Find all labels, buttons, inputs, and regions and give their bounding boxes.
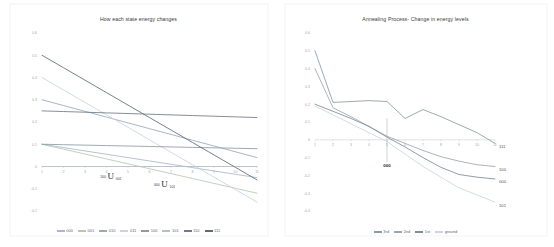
series-end-label-100: 100 bbox=[499, 167, 507, 172]
series-line-100 bbox=[42, 144, 257, 148]
series-line-110 bbox=[42, 111, 257, 118]
y-axis-tick-label: -0.2 bbox=[304, 174, 310, 178]
crossing-label-left-000: 000 bbox=[154, 183, 160, 187]
x-axis-tick-label: 4 bbox=[368, 143, 370, 147]
y-axis-tick-label: 0.6 bbox=[32, 31, 37, 35]
y-axis-tick-label: 0.3 bbox=[32, 98, 37, 102]
legend-item-101[interactable]: 101 bbox=[162, 229, 178, 233]
legend-label: 100 bbox=[151, 229, 158, 233]
crossing-label-left-100: 100 bbox=[100, 175, 106, 179]
left-chart-legend: 000001010011100101110111 bbox=[0, 229, 277, 233]
legend-swatch-icon bbox=[184, 230, 192, 231]
y-axis-tick-label: 0 bbox=[308, 138, 310, 142]
left-chart-panel: How each state energy changes 0.60.50.40… bbox=[0, 0, 277, 247]
crossing-glyph: U bbox=[161, 179, 168, 189]
legend-item-010[interactable]: 010 bbox=[99, 229, 115, 233]
series-end-label-000: 000 bbox=[499, 179, 507, 184]
x-axis-tick-label: 2 bbox=[332, 143, 334, 147]
y-axis-tick-label: -0.1 bbox=[304, 156, 310, 160]
right-chart-legend: 3rd2nd1stground bbox=[277, 230, 554, 234]
crossing-label-right-101: 101 bbox=[170, 185, 176, 189]
legend-label: 010 bbox=[109, 229, 116, 233]
legend-item-100[interactable]: 100 bbox=[141, 229, 157, 233]
legend-label: ground bbox=[445, 230, 457, 234]
series-end-label-111: 111 bbox=[499, 144, 506, 149]
plot-area-border bbox=[10, 4, 268, 236]
x-axis-tick-label: 3 bbox=[350, 143, 352, 147]
x-axis-tick-label: 9 bbox=[213, 170, 215, 174]
legend-swatch-icon bbox=[57, 230, 65, 231]
legend-item-111[interactable]: 111 bbox=[205, 229, 221, 233]
legend-swatch-icon bbox=[78, 230, 86, 231]
y-axis-tick-label: 0 bbox=[35, 165, 37, 169]
legend-label: 3rd bbox=[383, 230, 389, 234]
x-axis-tick-label: 10 bbox=[475, 143, 479, 147]
y-axis-tick-label: 0.1 bbox=[305, 120, 310, 124]
legend-swatch-icon bbox=[141, 230, 149, 231]
series-line-1st bbox=[315, 104, 495, 179]
y-axis-tick-label: -0.4 bbox=[304, 209, 310, 213]
legend-label: 001 bbox=[88, 229, 95, 233]
legend-item-000[interactable]: 000 bbox=[57, 229, 73, 233]
y-axis-tick-label: 0.2 bbox=[305, 103, 310, 107]
y-axis-tick-label: 0.2 bbox=[32, 120, 37, 124]
legend-swatch-icon bbox=[99, 230, 107, 231]
legend-label: 2nd bbox=[404, 230, 411, 234]
x-axis-tick-label: 7 bbox=[170, 170, 172, 174]
x-axis-tick-label: 10 bbox=[234, 170, 238, 174]
chart-page: How each state energy changes 0.60.50.40… bbox=[0, 0, 554, 247]
legend-swatch-icon bbox=[415, 231, 423, 232]
series-line-2nd bbox=[315, 69, 495, 167]
plot-area-border bbox=[285, 4, 547, 236]
legend-item-110[interactable]: 110 bbox=[184, 229, 200, 233]
right-chart-panel: Annealing Process- Change in energy leve… bbox=[277, 0, 554, 247]
legend-label: 111 bbox=[214, 229, 220, 233]
legend-swatch-icon bbox=[120, 230, 128, 231]
x-axis-tick-label: 1 bbox=[41, 170, 43, 174]
x-axis-tick-label: 11 bbox=[255, 170, 259, 174]
x-axis-tick-label: 2 bbox=[63, 170, 65, 174]
crossing-label-right-001: 001 bbox=[116, 177, 122, 181]
left-chart-plot: 0.60.50.40.30.20.10-0.1-0.21234567891011… bbox=[0, 0, 277, 247]
y-axis-tick-label: -0.3 bbox=[304, 192, 310, 196]
y-axis-tick-label: -0.2 bbox=[31, 209, 37, 213]
series-end-label-101: 101 bbox=[499, 203, 507, 208]
x-axis-tick-label: 1 bbox=[314, 143, 316, 147]
legend-label: 110 bbox=[193, 229, 199, 233]
legend-item-ground[interactable]: ground bbox=[435, 230, 457, 234]
right-chart-plot: 0.60.50.40.30.20.10-0.1-0.2-0.3-0.412345… bbox=[277, 0, 554, 247]
legend-label: 101 bbox=[172, 229, 179, 233]
legend-label: 1st bbox=[425, 230, 430, 234]
legend-swatch-icon bbox=[374, 231, 382, 232]
x-axis-tick-label: 9 bbox=[458, 143, 460, 147]
series-line-011 bbox=[42, 78, 257, 203]
x-axis-tick-label: 8 bbox=[440, 143, 442, 147]
y-axis-tick-label: 0.6 bbox=[305, 31, 310, 35]
series-line-3rd bbox=[315, 51, 495, 144]
x-axis-tick-label: 8 bbox=[192, 170, 194, 174]
y-axis-tick-label: 0.4 bbox=[305, 67, 310, 71]
x-axis-tick-label: 5 bbox=[127, 170, 129, 174]
legend-item-3rd[interactable]: 3rd bbox=[374, 230, 389, 234]
x-axis-tick-label: 6 bbox=[149, 170, 151, 174]
legend-label: 000 bbox=[66, 229, 73, 233]
crossing-glyph: U bbox=[108, 171, 115, 181]
legend-label: 011 bbox=[130, 229, 136, 233]
x-axis-tick-label: 7 bbox=[422, 143, 424, 147]
y-axis-tick-label: 0.1 bbox=[32, 143, 37, 147]
legend-swatch-icon bbox=[205, 230, 213, 231]
legend-swatch-icon bbox=[394, 231, 402, 232]
legend-item-001[interactable]: 001 bbox=[78, 229, 94, 233]
series-line-001 bbox=[42, 144, 257, 193]
x-axis-tick-label: 3 bbox=[84, 170, 86, 174]
y-axis-tick-label: -0.1 bbox=[31, 187, 37, 191]
y-axis-tick-label: 0.5 bbox=[32, 54, 37, 58]
series-line-ground bbox=[315, 106, 495, 202]
legend-swatch-icon bbox=[162, 230, 170, 231]
legend-item-2nd[interactable]: 2nd bbox=[394, 230, 410, 234]
y-axis-tick-label: 0.5 bbox=[305, 49, 310, 53]
legend-item-011[interactable]: 011 bbox=[120, 229, 136, 233]
annotation-label-000: 000 bbox=[383, 163, 391, 168]
y-axis-tick-label: 0.3 bbox=[305, 85, 310, 89]
legend-item-1st[interactable]: 1st bbox=[415, 230, 430, 234]
